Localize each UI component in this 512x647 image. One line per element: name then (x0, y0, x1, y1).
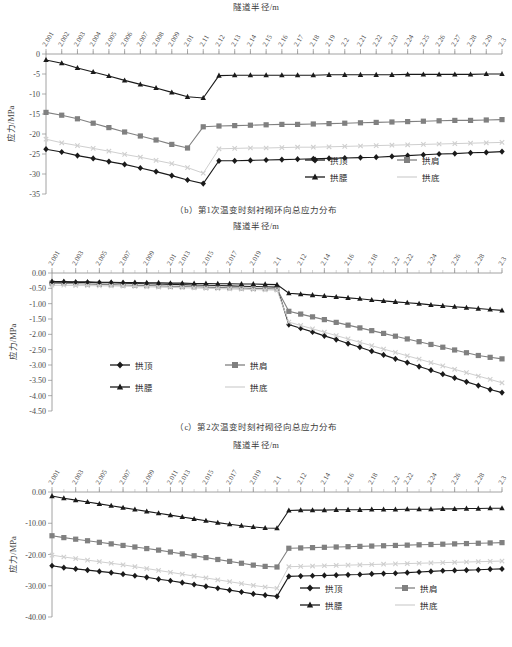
marker-diamond (393, 356, 398, 362)
marker-diamond (191, 581, 196, 587)
x-tick-label: 2.13 (229, 33, 242, 48)
marker-diamond (90, 155, 95, 161)
marker-square (298, 545, 303, 550)
marker-square (274, 564, 279, 569)
marker-diamond (440, 568, 445, 574)
y-tick-label: -5 (33, 70, 40, 79)
marker-square (402, 585, 408, 591)
marker-square (468, 118, 473, 123)
marker-square (404, 157, 410, 163)
marker-diamond (168, 578, 173, 584)
fig-d-x-axis-title: 隧道半径/m (0, 438, 512, 450)
marker-square (452, 541, 457, 546)
marker-diamond (476, 382, 481, 388)
marker-diamond (108, 570, 113, 576)
x-tick-label: 2.22 (402, 471, 415, 486)
marker-diamond (120, 571, 125, 577)
marker-diamond (464, 379, 469, 385)
marker-diamond (248, 157, 253, 163)
x-tick-label: 2.12 (214, 33, 227, 48)
marker-diamond (156, 576, 161, 582)
marker-square (322, 317, 327, 322)
marker-square (476, 353, 481, 358)
y-tick-label: 0.00 (32, 488, 46, 497)
marker-diamond (215, 585, 220, 591)
marker-diamond (85, 567, 90, 573)
y-tick-label: -20.00 (25, 551, 46, 560)
series-3 (49, 279, 504, 313)
marker-square (334, 320, 339, 325)
marker-square (295, 122, 300, 127)
x-tick-label: 2.16 (343, 252, 356, 267)
marker-diamond (389, 153, 394, 159)
x-tick-label: 2.017 (224, 468, 239, 486)
marker-diamond (49, 563, 54, 569)
marker-square (168, 549, 173, 554)
marker-square (120, 543, 125, 548)
marker-diamond (357, 344, 362, 350)
marker-diamond (153, 168, 158, 174)
series-line (52, 496, 502, 528)
marker-square (464, 350, 469, 355)
series-line (46, 60, 502, 98)
x-tick-label: 2.11 (198, 33, 211, 48)
marker-square (264, 122, 269, 127)
marker-square (192, 553, 197, 558)
marker-square (357, 325, 362, 330)
marker-square (369, 543, 374, 548)
x-tick-label: 2.008 (151, 30, 166, 48)
x-tick-label: 2.2 (390, 255, 402, 267)
marker-diamond (61, 565, 66, 571)
marker-square (91, 121, 96, 126)
x-tick-label: 2.017 (224, 249, 239, 267)
marker-square (85, 538, 90, 543)
y-axis-title: 应力/MPa (8, 324, 18, 361)
marker-diamond (440, 371, 445, 377)
marker-square (298, 311, 303, 316)
marker-square (153, 137, 158, 142)
x-tick-label: 2.1 (272, 255, 284, 267)
marker-diamond (251, 591, 256, 597)
marker-diamond (358, 154, 363, 160)
y-tick-label: 0.00 (32, 269, 46, 278)
marker-square (393, 334, 398, 339)
legend-item-label: 拱肩 (250, 361, 268, 371)
x-tick-label: 2.18 (367, 252, 380, 267)
fig-b-x-axis-title: 隧道半径/m (0, 0, 512, 12)
marker-diamond (452, 375, 457, 381)
marker-diamond (310, 573, 315, 579)
marker-square (417, 339, 422, 344)
marker-triangle (286, 290, 291, 295)
marker-square (345, 544, 350, 549)
marker-square (106, 125, 111, 130)
marker-square (227, 559, 232, 564)
x-tick-label: 2.24 (426, 252, 439, 267)
x-tick-label: 2.14 (319, 471, 332, 486)
marker-square (248, 123, 253, 128)
y-axis-title: 应力/MPa (8, 536, 18, 573)
marker-diamond (381, 352, 386, 358)
marker-diamond (476, 567, 481, 573)
marker-diamond (499, 566, 504, 572)
x-tick-label: 2.17 (292, 33, 305, 48)
y-tick-label: -3.00 (29, 361, 46, 370)
marker-square (286, 546, 291, 551)
x-tick-label: 2.28 (473, 252, 486, 267)
marker-square (488, 355, 493, 360)
x-tick-label: 2.16 (343, 471, 356, 486)
series-4 (50, 283, 504, 385)
marker-diamond (169, 172, 174, 178)
y-tick-label: -4.50 (29, 407, 46, 416)
marker-square (109, 541, 114, 546)
x-tick-label: 2.3 (497, 474, 509, 486)
legend-item-label: 拱腰 (325, 601, 343, 611)
x-tick-label: 2.1 (272, 474, 284, 486)
marker-square (381, 543, 386, 548)
marker-square (357, 544, 362, 549)
y-tick-label: -30 (29, 170, 40, 179)
marker-diamond (138, 165, 143, 171)
x-tick-label: 2.001 (47, 249, 62, 267)
marker-diamond (298, 573, 303, 579)
series-3 (49, 493, 504, 530)
y-axis-title: 应力/MPa (6, 106, 16, 143)
